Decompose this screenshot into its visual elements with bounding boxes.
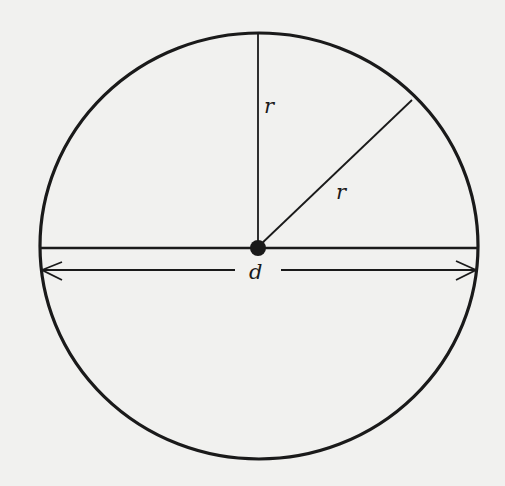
diameter-label: d	[249, 262, 262, 283]
arrowhead-left-icon	[42, 262, 62, 280]
diagram-canvas	[0, 0, 505, 486]
circle-diagram: r r d	[0, 0, 505, 486]
vertical-radius-label: r	[264, 96, 274, 117]
diagonal-radius-line	[259, 100, 412, 246]
center-point	[250, 240, 266, 256]
diagonal-radius-label: r	[336, 182, 346, 203]
